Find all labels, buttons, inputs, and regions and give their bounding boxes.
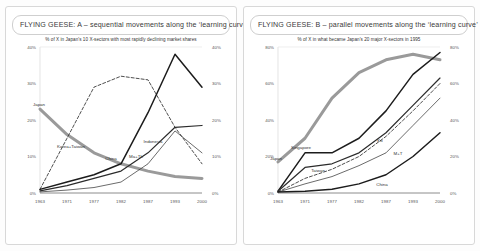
- svg-text:10%: 10%: [27, 154, 36, 159]
- svg-text:1993: 1993: [170, 199, 180, 204]
- screenshot-root: FLYING GEESE: A – sequential movements a…: [0, 0, 480, 251]
- svg-text:1987: 1987: [381, 199, 391, 204]
- svg-text:1982: 1982: [116, 199, 126, 204]
- svg-text:0%: 0%: [212, 191, 218, 196]
- chart-a-container: % of X in Japan's 10 X-sectors with most…: [6, 37, 236, 243]
- series-label-singapore: Singapore: [291, 145, 312, 150]
- chart-a-svg: 0%0%10%10%20%20%30%30%40%40%196319711977…: [6, 37, 238, 233]
- svg-text:60%: 60%: [265, 81, 274, 86]
- svg-text:20%: 20%: [27, 118, 36, 123]
- svg-text:80%: 80%: [450, 45, 459, 50]
- svg-text:2000: 2000: [197, 199, 207, 204]
- svg-text:40%: 40%: [265, 118, 274, 123]
- svg-text:40%: 40%: [212, 45, 221, 50]
- series-label-m-t: M+T: [394, 151, 403, 156]
- svg-text:1993: 1993: [408, 199, 418, 204]
- svg-text:30%: 30%: [27, 81, 36, 86]
- panel-flying-geese-a: FLYING GEESE: A – sequential movements a…: [5, 6, 237, 245]
- svg-text:60%: 60%: [450, 81, 459, 86]
- svg-text:0%: 0%: [30, 191, 36, 196]
- svg-text:1977: 1977: [327, 199, 337, 204]
- panel-a-title: FLYING GEESE: A – sequential movements a…: [20, 21, 249, 29]
- series-line-taiwan: [278, 78, 440, 191]
- svg-text:20%: 20%: [450, 154, 459, 159]
- svg-text:1963: 1963: [273, 199, 283, 204]
- panel-b-title-box: FLYING GEESE: B – parallel movements alo…: [250, 15, 468, 35]
- series-line-china: [40, 54, 202, 189]
- svg-text:1987: 1987: [143, 199, 153, 204]
- series-label-china: China: [376, 182, 388, 187]
- svg-text:2000: 2000: [435, 199, 445, 204]
- svg-text:80%: 80%: [265, 45, 274, 50]
- series-label-ko: Ko: [377, 138, 383, 143]
- series-label-indonesia: Indonesia: [143, 139, 163, 144]
- svg-text:0%: 0%: [268, 191, 274, 196]
- svg-text:1971: 1971: [62, 199, 72, 204]
- series-label-japan: Japan: [33, 102, 46, 107]
- series-label-japan: Japan: [270, 156, 283, 161]
- svg-text:1982: 1982: [354, 199, 364, 204]
- chart-b-svg: 0%0%20%20%40%40%60%60%80%80%196319711977…: [244, 37, 476, 233]
- panel-a-title-box: FLYING GEESE: A – sequential movements a…: [12, 15, 230, 35]
- chart-b-container: % of X in what became Japan's 20 major X…: [244, 37, 474, 243]
- series-label-korea-taiwan: Korea+Taiwan: [57, 144, 86, 149]
- chart-a-subtitle: % of X in Japan's 10 X-sectors with most…: [6, 37, 236, 42]
- svg-text:1977: 1977: [89, 199, 99, 204]
- svg-text:0%: 0%: [450, 191, 456, 196]
- series-line-ma-th: [40, 125, 202, 190]
- svg-text:40%: 40%: [27, 45, 36, 50]
- series-label-taiwan: Taiwan: [311, 168, 325, 173]
- series-label-ma-th: Ma+Th: [129, 154, 143, 159]
- chart-b-subtitle: % of X in what became Japan's 20 major X…: [244, 37, 474, 42]
- svg-text:10%: 10%: [212, 154, 221, 159]
- svg-text:30%: 30%: [212, 81, 221, 86]
- panel-b-title: FLYING GEESE: B – parallel movements alo…: [258, 21, 478, 29]
- panel-flying-geese-b: FLYING GEESE: B – parallel movements alo…: [243, 6, 475, 245]
- svg-text:40%: 40%: [450, 118, 459, 123]
- series-label-china: China: [105, 156, 117, 161]
- svg-text:1963: 1963: [35, 199, 45, 204]
- svg-text:20%: 20%: [212, 118, 221, 123]
- svg-text:1971: 1971: [300, 199, 310, 204]
